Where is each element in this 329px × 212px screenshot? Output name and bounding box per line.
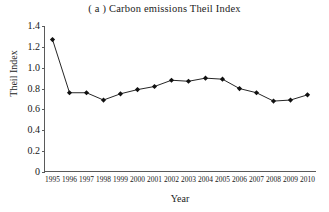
y-axis-title: Theil Index: [8, 29, 19, 119]
data-point-marker: [186, 79, 191, 84]
x-tick-label: 2005: [215, 175, 230, 184]
x-tick-label: 2010: [300, 175, 315, 184]
x-tick-label: 1996: [62, 175, 77, 184]
data-point-marker: [118, 91, 123, 96]
x-tick-label: 1998: [96, 175, 111, 184]
data-point-marker: [288, 97, 293, 102]
data-point-marker: [135, 87, 140, 92]
data-point-marker: [67, 90, 72, 95]
x-tick-label: 2001: [147, 175, 162, 184]
line-series: [44, 26, 316, 172]
data-point-marker: [237, 86, 242, 91]
data-point-marker: [220, 77, 225, 82]
x-tick-label: 1995: [45, 175, 60, 184]
plot-area: [44, 26, 316, 172]
x-tick-label: 2006: [232, 175, 247, 184]
data-point-marker: [50, 37, 55, 42]
x-tick-label: 2003: [181, 175, 196, 184]
data-point-marker: [152, 84, 157, 89]
figure-container: ( a ) Carbon emissions Theil Index 00.20…: [0, 0, 329, 212]
y-tick-label: 0: [10, 167, 40, 177]
x-axis-tick-labels: 1995199619971998199920002001200220032004…: [44, 175, 316, 187]
x-tick-label: 2000: [130, 175, 145, 184]
x-tick-label: 2007: [249, 175, 264, 184]
data-point-marker: [84, 90, 89, 95]
data-point-marker: [271, 98, 276, 103]
data-point-marker: [101, 97, 106, 102]
data-point-marker: [203, 76, 208, 81]
x-axis-title: Year: [44, 193, 316, 204]
x-tick-label: 2008: [266, 175, 281, 184]
x-tick-label: 1997: [79, 175, 94, 184]
x-tick-label: 1999: [113, 175, 128, 184]
data-point-marker: [305, 92, 310, 97]
series-line: [53, 40, 308, 102]
data-point-marker: [254, 90, 259, 95]
x-tick-label: 2002: [164, 175, 179, 184]
x-tick-label: 2009: [283, 175, 298, 184]
y-tick-label: 0.2: [10, 146, 40, 156]
data-point-marker: [169, 78, 174, 83]
y-tick-mark: [42, 172, 45, 173]
chart-title: ( a ) Carbon emissions Theil Index: [0, 3, 329, 14]
y-tick-label: 0.4: [10, 125, 40, 135]
x-tick-label: 2004: [198, 175, 213, 184]
